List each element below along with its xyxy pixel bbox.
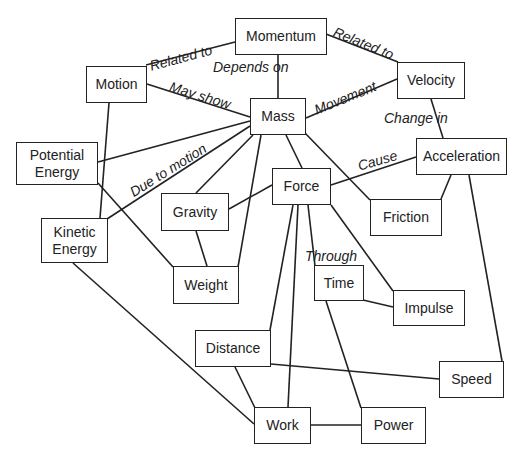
node-label: Acceleration (423, 148, 500, 165)
node-label: Weight (184, 277, 227, 294)
node-impulse: Impulse (393, 290, 465, 326)
node-time: Time (314, 265, 364, 301)
node-velocity: Velocity (397, 62, 465, 99)
concept-map: Related toRelated toDepends onMay showMo… (0, 0, 517, 458)
edge-distance-speed (271, 364, 439, 379)
node-label: Power (374, 417, 414, 434)
edge-gravity-force (229, 185, 272, 209)
node-work: Work (254, 407, 311, 444)
node-force: Force (272, 168, 331, 205)
node-label: Mass (261, 108, 294, 125)
node-potential-energy: Potential Energy (16, 142, 98, 185)
node-label: Friction (383, 209, 429, 226)
edge-distance-work (235, 367, 255, 408)
edge-time-power (326, 301, 361, 408)
node-label: Momentum (246, 28, 316, 45)
node-label: Impulse (404, 300, 453, 317)
node-label: Potential Energy (17, 147, 97, 181)
edge-gravity-mass (196, 135, 253, 193)
node-label: Distance (206, 340, 260, 357)
node-gravity: Gravity (161, 193, 229, 231)
node-acceleration: Acceleration (416, 138, 507, 175)
edge-label: Through (305, 248, 357, 264)
node-label: Velocity (407, 72, 455, 89)
node-weight: Weight (173, 266, 239, 304)
node-label: Speed (451, 371, 491, 388)
node-distance: Distance (195, 330, 271, 367)
node-label: Kinetic Energy (42, 224, 107, 258)
node-power: Power (361, 407, 426, 444)
node-label: Work (266, 417, 298, 434)
edge-label: Change in (384, 110, 448, 126)
node-label: Time (324, 275, 355, 292)
edge-acceleration-friction (441, 175, 451, 199)
node-label: Gravity (173, 204, 217, 221)
node-speed: Speed (439, 361, 504, 398)
node-label: Force (284, 178, 320, 195)
node-friction: Friction (370, 199, 442, 236)
node-motion: Motion (86, 66, 147, 103)
edge-force-distance (270, 205, 293, 330)
edge-weight-mass (238, 135, 261, 267)
node-mass: Mass (250, 98, 306, 135)
edge-acceleration-speed (469, 175, 502, 361)
node-label: Motion (95, 76, 137, 93)
edge-time-impulse (363, 300, 393, 307)
edge-mass-force (286, 135, 302, 168)
edge-gravity-weight (196, 231, 207, 266)
edge-force-work (288, 205, 298, 407)
node-kinetic-energy: Kinetic Energy (41, 218, 108, 263)
edge-label: Depends on (213, 59, 289, 75)
node-momentum: Momentum (235, 18, 327, 55)
